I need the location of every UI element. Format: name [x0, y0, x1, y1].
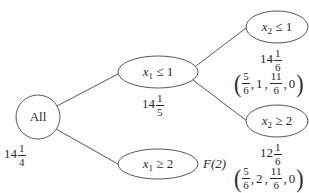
node-x1le1-label: x1 ≤ 1: [118, 65, 198, 81]
x2ge2-bound: 1216: [260, 142, 282, 167]
x1le1-bound: 1415: [142, 93, 164, 118]
node-x1ge2-label: x1 ≥ 2: [118, 157, 198, 173]
x2le1-solution: (56,1,116,0): [234, 71, 304, 96]
edge-root-x1ge2: [56, 129, 118, 164]
edge-x1le1-x2le1: [196, 28, 246, 66]
node-root-label: All: [16, 110, 60, 123]
x2ge2-solution: (56,2,116,0): [234, 166, 304, 191]
node-x2ge2-label: x2 ≥ 2: [246, 114, 308, 130]
fraction: 14: [18, 143, 26, 168]
root-bound: 1414: [4, 143, 26, 168]
x1ge2-status: F(2): [203, 157, 226, 170]
edge-root-x1le1: [57, 74, 118, 106]
fraction: 15: [156, 93, 164, 118]
fraction: 16: [274, 142, 282, 167]
node-x2le1-label: x2 ≤ 1: [246, 20, 308, 36]
